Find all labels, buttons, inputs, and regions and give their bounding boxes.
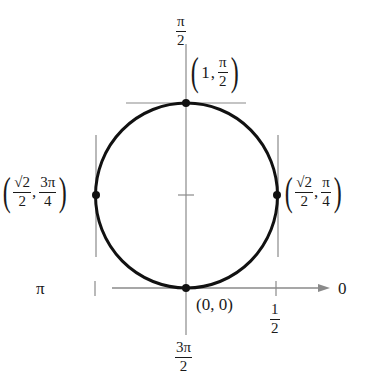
- axis-label-left: π: [36, 280, 45, 297]
- arrow-icon: [318, 284, 330, 292]
- axis-label-bottom: 3π2: [175, 340, 192, 375]
- axis-label-right: 0: [338, 280, 347, 297]
- tick-label-half: 12: [270, 302, 280, 337]
- point-left: [92, 191, 100, 199]
- point-label-origin: (0, 0): [196, 296, 233, 313]
- axis-label-top: π2: [176, 14, 186, 49]
- point-origin: [182, 284, 190, 292]
- point-top: [182, 99, 190, 107]
- point-label-right: ( √22, π4 ): [282, 172, 344, 212]
- point-label-left: ( √22, 3π4 ): [0, 172, 70, 212]
- point-right: [273, 191, 281, 199]
- point-label-top: ( 1, π2 ): [188, 52, 241, 92]
